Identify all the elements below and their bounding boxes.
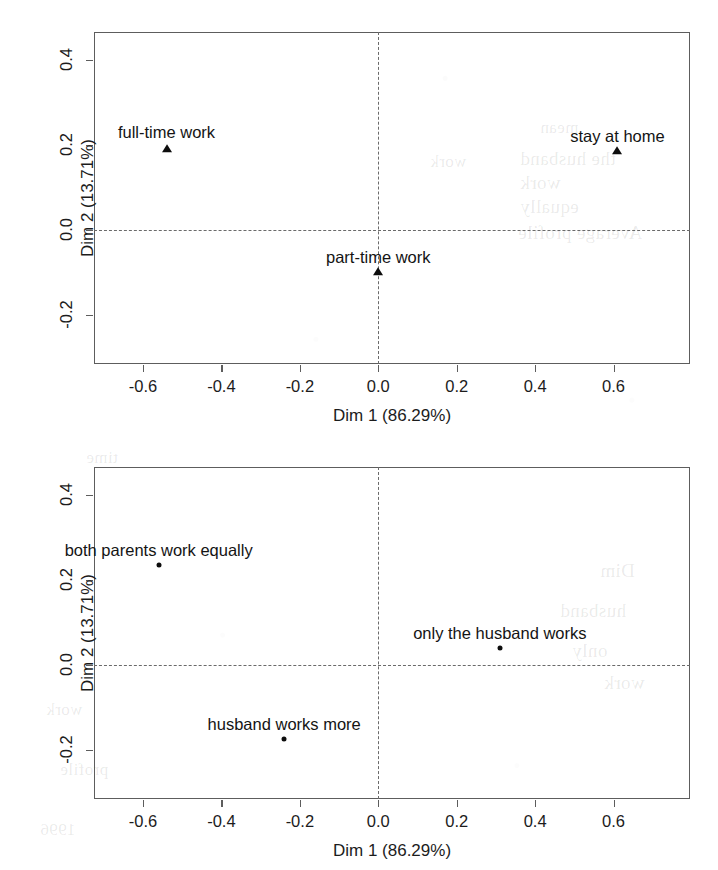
x-axis-tick: [614, 365, 615, 372]
x-axis-tick-label: 0.2: [445, 812, 468, 831]
x-axis-tick: [143, 800, 144, 807]
x-axis-tick-label: 0.0: [367, 377, 390, 396]
x-axis-tick-label: -0.4: [207, 377, 235, 396]
x-axis-tick: [457, 800, 458, 807]
x-axis-tick: [378, 365, 379, 372]
plot-frame: [94, 467, 690, 799]
y-axis-tick: [86, 750, 93, 751]
x-axis-tick-label: -0.4: [207, 812, 235, 831]
x-axis-tick: [535, 800, 536, 807]
x-axis-tick: [378, 800, 379, 807]
x-axis-tick: [457, 365, 458, 372]
mca-variable-categories-plot: -0.6-0.4-0.20.00.20.40.6-0.20.00.20.4Dim…: [0, 0, 718, 435]
data-point-label: husband works more: [208, 715, 361, 734]
x-axis-tick-label: 0.6: [602, 812, 625, 831]
x-axis-tick-label: 0.4: [524, 377, 547, 396]
x-axis-tick-label: -0.2: [286, 377, 314, 396]
x-axis-title: Dim 1 (86.29%): [333, 841, 451, 861]
x-axis-tick-label: 0.0: [367, 812, 390, 831]
data-point-marker: [156, 562, 161, 567]
x-axis-tick-label: 0.6: [602, 377, 625, 396]
y-axis-tick-label: -0.2: [57, 732, 76, 768]
x-axis-tick: [221, 800, 222, 807]
y-axis-title: Dim 2 (13.71%): [78, 108, 98, 288]
y-axis-title: Dim 2 (13.71%): [78, 543, 98, 723]
x-axis-title: Dim 1 (86.29%): [333, 406, 451, 426]
x-axis-tick: [300, 365, 301, 372]
x-axis-tick: [143, 365, 144, 372]
x-axis-tick: [300, 800, 301, 807]
data-point-label: both parents work equally: [65, 541, 253, 560]
data-point-label: stay at home: [570, 127, 664, 146]
x-axis-tick: [535, 365, 536, 372]
y-axis-tick: [86, 60, 93, 61]
data-point-label: full-time work: [118, 123, 215, 142]
y-axis-tick-label: -0.2: [57, 297, 76, 333]
x-axis-tick: [221, 365, 222, 372]
x-axis-tick-label: -0.6: [129, 377, 157, 396]
x-axis-tick-label: -0.6: [129, 812, 157, 831]
data-point-marker: [612, 146, 622, 154]
data-point-marker: [162, 144, 172, 152]
data-point-marker: [373, 268, 383, 276]
x-axis-tick-label: 0.4: [524, 812, 547, 831]
plot-frame: [94, 32, 690, 364]
y-axis-tick-label: 0.4: [57, 476, 76, 512]
data-point-marker: [497, 645, 502, 650]
x-axis-tick-label: -0.2: [286, 812, 314, 831]
y-axis-tick: [86, 495, 93, 496]
mca-individual-categories-plot: -0.6-0.4-0.20.00.20.40.6-0.20.00.20.4Dim…: [0, 435, 718, 870]
data-point-label: part-time work: [326, 248, 431, 267]
data-point-label: only the husband works: [413, 624, 586, 643]
y-axis-tick-label: 0.2: [57, 561, 76, 597]
data-point-marker: [282, 737, 287, 742]
y-axis-tick-label: 0.0: [57, 211, 76, 247]
y-axis-tick-label: 0.2: [57, 126, 76, 162]
y-axis-tick-label: 0.0: [57, 646, 76, 682]
y-axis-tick-label: 0.4: [57, 41, 76, 77]
x-axis-tick: [614, 800, 615, 807]
y-axis-tick: [86, 315, 93, 316]
x-axis-tick-label: 0.2: [445, 377, 468, 396]
